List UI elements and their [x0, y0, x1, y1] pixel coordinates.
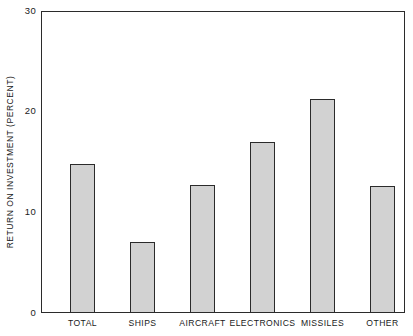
bar-electronics[interactable] [250, 142, 275, 313]
y-tick-label-10: 10 [0, 207, 36, 217]
bar-aircraft[interactable] [190, 185, 215, 313]
bar-ships[interactable] [130, 242, 155, 313]
x-tick-label-ships: SHIPS [128, 318, 156, 329]
x-tick-label-aircraft: AIRCRAFT [179, 318, 226, 329]
plot-area [41, 11, 405, 313]
bar-other[interactable] [370, 186, 395, 313]
bar-total[interactable] [70, 164, 95, 313]
y-axis-title: RETURN ON INVESTMENT (PERCENT) [3, 11, 17, 313]
x-tick-label-other: OTHER [366, 318, 398, 329]
y-tick-label-20: 20 [0, 106, 36, 116]
x-tick-label-missiles: MISSILES [301, 318, 344, 329]
bar-missiles[interactable] [310, 99, 335, 313]
x-tick-label-electronics: ELECTRONICS [229, 318, 295, 329]
x-tick-label-total: TOTAL [68, 318, 97, 329]
y-tick-label-0: 0 [0, 308, 36, 318]
y-tick-label-30: 30 [0, 6, 36, 16]
bar-chart-figure: RETURN ON INVESTMENT (PERCENT) 0102030 T… [0, 0, 413, 336]
